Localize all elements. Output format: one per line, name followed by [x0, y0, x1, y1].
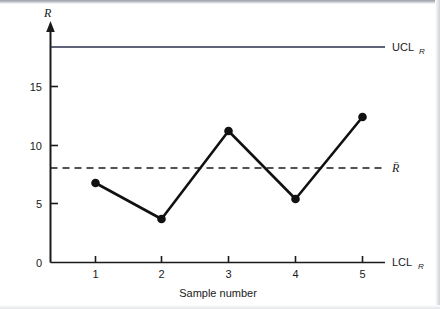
lcl-label-subscript: R [418, 262, 424, 271]
data-point-4[interactable] [291, 195, 300, 204]
data-point-3[interactable] [224, 127, 233, 136]
center-line-label: R̄ [391, 161, 400, 175]
ucl-label-group: UCL R [392, 41, 425, 56]
x-tick-label-1: 1 [92, 268, 98, 280]
y-axis [46, 21, 55, 263]
y-tick-marks [51, 87, 59, 204]
y-tick-label-5: 5 [36, 198, 42, 210]
data-points [91, 113, 367, 224]
y-tick-label-0: 0 [36, 257, 42, 269]
x-axis-title: Sample number [179, 287, 257, 299]
ucl-label-subscript: R [419, 47, 425, 56]
r-chart-plot: 15 10 5 0 R 1 2 3 4 5 Sample number [0, 0, 440, 309]
lcl-label-group: LCL R [392, 256, 424, 271]
y-tick-label-10: 10 [30, 140, 42, 152]
x-tick-marks [96, 256, 363, 263]
data-point-1[interactable] [91, 179, 100, 188]
data-point-2[interactable] [157, 215, 166, 224]
y-axis-arrowhead [46, 21, 55, 32]
y-tick-label-15: 15 [30, 81, 42, 93]
lcl-label: LCL [392, 256, 412, 268]
x-tick-label-2: 2 [158, 268, 164, 280]
y-axis-label: R [43, 6, 52, 20]
x-tick-label-4: 4 [292, 268, 298, 280]
control-chart-figure: 15 10 5 0 R 1 2 3 4 5 Sample number [0, 0, 440, 309]
x-tick-label-3: 3 [225, 268, 231, 280]
x-tick-label-5: 5 [359, 268, 365, 280]
ucl-label: UCL [392, 41, 414, 53]
data-point-5[interactable] [358, 113, 367, 122]
